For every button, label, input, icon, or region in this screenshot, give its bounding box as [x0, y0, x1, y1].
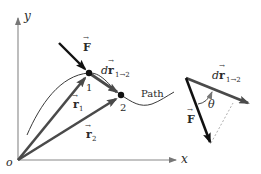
r1-subscript: 1: [79, 105, 83, 113]
y-axis-label: y: [23, 9, 31, 23]
point-2: [118, 92, 124, 98]
inset-dr-subscript: 1→2: [226, 76, 241, 84]
dr-label-text: r: [108, 64, 114, 77]
inset-dr-prefix: d: [212, 69, 219, 82]
r2-vector: [18, 99, 116, 160]
inset-angle-label: θ: [208, 98, 215, 111]
inset-dr-label: d → r 1→2: [212, 62, 241, 84]
r2-subscript: 2: [92, 135, 96, 143]
force-label-text: F: [83, 41, 91, 54]
force-vector: [59, 43, 85, 69]
point-1: [86, 70, 92, 76]
r1-vector: [18, 78, 85, 160]
inset-vector-diagram: θ → F d → r 1→2: [186, 62, 248, 143]
inset-force-label: → F: [187, 106, 195, 126]
point-2-label: 2: [120, 102, 126, 113]
inset-force-label-text: F: [187, 113, 195, 126]
path-label: Path: [141, 88, 164, 99]
r1-label: → r 1: [72, 92, 83, 113]
r2-label: → r 2: [85, 122, 96, 143]
inset-dr-label-text: r: [219, 69, 225, 82]
force-label: → F: [83, 34, 91, 54]
dr-label: d → r 1→2: [101, 57, 130, 79]
dr-subscript: 1→2: [115, 71, 130, 79]
origin-label: o: [6, 156, 13, 169]
dr-prefix: d: [101, 64, 108, 77]
point-1-label: 1: [86, 82, 92, 93]
work-diagram: y x o Path 1 2 → F d → r 1→2 → r 1 → r 2: [0, 0, 261, 174]
x-axis-label: x: [181, 152, 188, 166]
